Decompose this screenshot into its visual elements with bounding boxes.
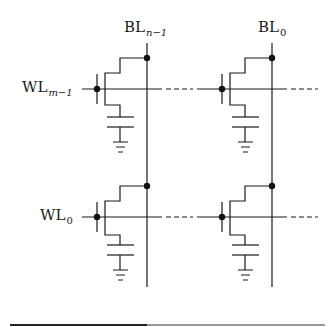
memory-cell-top-left: [94, 55, 150, 152]
access-transistor-icon: [219, 183, 275, 245]
bitline-label-main: BL: [258, 18, 279, 36]
bitline-label-n-minus-1: BLn−1: [124, 20, 167, 35]
ground-icon: [238, 142, 253, 152]
wordline-label-subscript: 0: [66, 215, 72, 226]
capacitor-icon: [232, 245, 259, 270]
bottom-rule-light: [147, 324, 325, 326]
wordline-label-subscript: m−1: [48, 87, 72, 98]
ground-icon: [113, 142, 128, 152]
capacitor-icon: [232, 117, 259, 142]
bottom-rule-dark: [10, 324, 147, 326]
access-transistor-icon: [94, 183, 150, 245]
capacitor-icon: [107, 245, 134, 270]
wordline-label-m-minus-1: WLm−1: [22, 80, 73, 95]
capacitor-icon: [107, 117, 134, 142]
ground-icon: [113, 270, 128, 280]
wordline-label-0: WL0: [40, 208, 73, 223]
ground-icon: [238, 270, 253, 280]
bitline-label-0: BL0: [258, 20, 286, 35]
access-transistor-icon: [94, 55, 150, 117]
bitline-label-subscript: 0: [280, 27, 286, 38]
memory-cell-bottom-right: [219, 183, 275, 280]
bitline-label-main: BL: [124, 18, 145, 36]
dram-array-schematic: [0, 0, 332, 327]
wordline-label-main: WL: [40, 206, 65, 224]
memory-cell-top-right: [219, 55, 275, 152]
memory-cell-bottom-left: [94, 183, 150, 280]
bitline-label-subscript: n−1: [146, 27, 167, 38]
access-transistor-icon: [219, 55, 275, 117]
wordline-label-main: WL: [22, 78, 47, 96]
